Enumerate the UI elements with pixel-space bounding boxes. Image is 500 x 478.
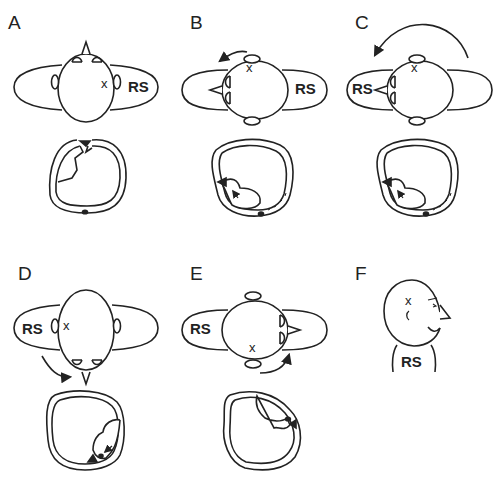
panel-f-rs-label: RS [401, 353, 422, 370]
panel-f-x-marker: x [405, 293, 412, 308]
panel-b-x-marker: x [246, 60, 253, 75]
panel-a-rs-label: RS [128, 78, 149, 95]
panel-d-canal [47, 391, 124, 470]
panel-e-rs-label: RS [190, 320, 211, 337]
panel-c-canal [377, 139, 458, 216]
panel-e-x-marker: x [249, 340, 256, 355]
diagram-canvas: x RS x RS [0, 0, 500, 478]
panel-e-canal [224, 392, 301, 470]
panel-c-rs-label: RS [352, 80, 373, 97]
panel-c-head [347, 24, 492, 125]
panel-d-head [14, 290, 158, 384]
panel-d-x-marker: x [63, 318, 70, 333]
panel-a-x-marker: x [101, 76, 108, 91]
panel-d-rs-label: RS [22, 320, 43, 337]
panel-a-canal [50, 140, 126, 214]
panel-c-x-marker: x [411, 60, 418, 75]
panel-b-rs-label: RS [295, 80, 316, 97]
panel-b-canal [212, 139, 293, 216]
